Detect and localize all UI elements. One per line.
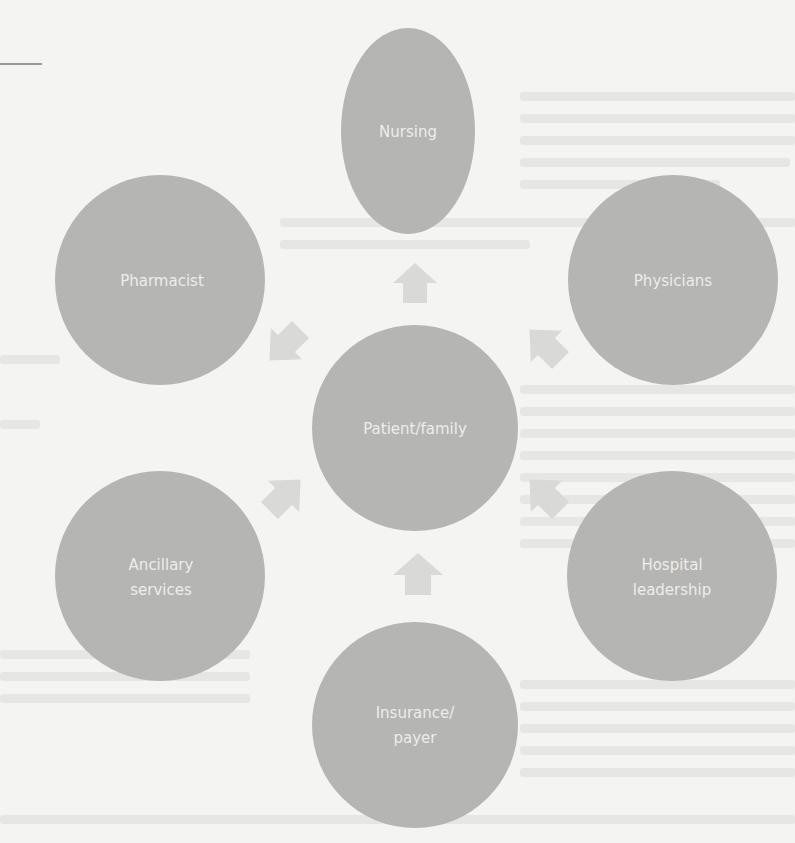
node-ancillary-label-line1: Ancillary <box>129 556 194 574</box>
arrow-nursing-to-center <box>393 263 437 303</box>
node-physicians: Physicians <box>568 175 778 385</box>
node-hospital-leadership: Hospital leadership <box>567 471 777 681</box>
arrow-ancillary-to-center <box>254 464 316 526</box>
node-pharmacist-label: Pharmacist <box>120 272 204 290</box>
center-node-label: Patient/family <box>363 420 467 438</box>
arrow-physicians-to-center <box>514 314 576 376</box>
node-ancillary-services: Ancillary services <box>55 471 265 681</box>
node-insurance-label-line1: Insurance/ <box>376 704 456 722</box>
node-physicians-label: Physicians <box>634 272 713 290</box>
node-hospital-label-line1: Hospital <box>641 556 702 574</box>
node-insurance-label-line2: payer <box>394 729 438 747</box>
node-insurance-payer: Insurance/ payer <box>312 622 518 828</box>
stakeholder-diagram: Nursing Pharmacist Physicians Patient/fa… <box>0 0 795 843</box>
arrow-insurance-to-center <box>393 553 443 595</box>
node-pharmacist: Pharmacist <box>55 175 265 385</box>
node-hospital-label-line2: leadership <box>633 581 712 599</box>
arrow-pharmacist-to-center <box>254 314 316 376</box>
node-nursing-label: Nursing <box>379 123 437 141</box>
node-nursing: Nursing <box>341 28 475 234</box>
node-ancillary-label-line2: services <box>130 581 192 599</box>
node-patient-family: Patient/family <box>312 325 518 531</box>
arrow-hospital-leadership-to-center <box>514 464 576 526</box>
